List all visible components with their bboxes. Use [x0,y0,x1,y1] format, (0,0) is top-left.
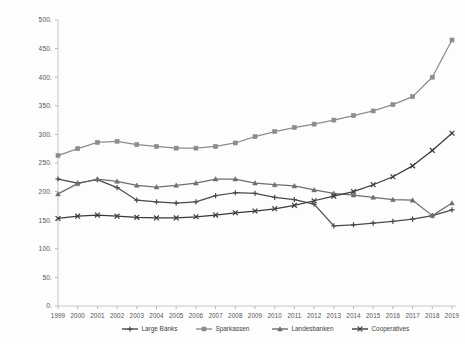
data-point-marker [213,193,218,198]
y-tick-label: 50. [42,274,52,281]
data-point-marker [127,326,132,331]
data-point-marker [390,219,395,224]
y-tick-label: 150. [39,217,52,224]
series-layer [55,38,454,229]
data-point-marker [233,141,237,145]
data-point-marker [214,144,218,148]
x-tick-label: 2011 [287,312,301,319]
data-point-marker [410,163,415,168]
data-point-marker [391,174,396,179]
data-point-marker [449,207,454,212]
data-point-marker [411,95,415,99]
data-point-marker [233,190,238,195]
x-tick-label: 2014 [346,312,361,319]
data-point-marker [76,147,80,151]
x-tick-label: 2012 [307,312,322,319]
legend-item-label: Sparkassen [216,325,250,333]
x-tick-label: 2005 [169,312,184,319]
y-tick-label: 250. [39,159,52,166]
data-point-marker [371,220,376,225]
data-point-marker [450,201,455,205]
y-tick-label: 0. [46,302,52,309]
legend-item-label: Landesbanken [292,325,334,332]
x-tick-label: 2002 [110,312,125,319]
data-point-marker [155,144,159,148]
data-point-marker [95,140,99,144]
chart-legend: Large BanksSparkassenLandesbankenCoopera… [122,325,409,333]
x-tick-label: 2008 [228,312,243,319]
data-point-marker [253,135,257,139]
data-point-marker [450,38,454,42]
x-tick-label: 2019 [445,312,460,319]
data-point-marker [391,103,395,107]
x-tick-label: 2007 [208,312,223,319]
data-point-marker [115,139,119,143]
x-tick-label: 2003 [130,312,145,319]
legend-item-large-banks[interactable]: Large Banks [122,325,177,333]
data-point-marker [55,176,60,181]
x-tick-label: 1999 [51,312,66,319]
x-tick-label: 2017 [405,312,420,319]
data-point-marker [272,195,277,200]
line-chart: 0.50.100.150.200.250.300.350.400.450.500… [0,0,465,344]
y-tick-label: 400. [39,74,52,81]
legend-item-label: Cooperatives [372,325,410,333]
data-point-marker [450,131,455,136]
data-point-marker [430,148,435,153]
data-point-marker [410,216,415,221]
data-point-marker [252,191,257,196]
data-point-marker [332,118,336,122]
x-tick-label: 2016 [386,312,401,319]
data-point-marker [312,122,316,126]
legend-item-label: Large Banks [142,325,178,333]
series-sparkassen [56,38,454,158]
y-tick-label: 300. [39,131,52,138]
data-point-marker [351,222,356,227]
data-point-marker [56,154,60,158]
y-axis: 0.50.100.150.200.250.300.350.400.450.500… [39,16,58,309]
x-tick-label: 2009 [248,312,263,319]
data-point-marker [194,146,198,150]
x-tick-label: 2004 [149,312,164,319]
data-point-marker [292,126,296,130]
x-tick-label: 2000 [70,312,85,319]
data-point-marker [273,130,277,134]
data-point-marker [174,200,179,205]
data-point-marker [292,197,297,202]
series-cooperatives [56,131,455,221]
y-tick-label: 350. [39,102,52,109]
x-tick-label: 2010 [267,312,282,319]
data-point-marker [154,199,159,204]
x-tick-label: 2006 [189,312,204,319]
y-tick-label: 200. [39,188,52,195]
legend-item-landesbanken[interactable]: Landesbanken [272,325,334,332]
data-point-marker [352,114,356,118]
data-point-marker [135,143,139,147]
x-axis: 1999200020012002200320042005200620072008… [51,306,460,319]
series-line [58,133,452,218]
x-tick-label: 2001 [90,312,105,319]
y-tick-label: 100. [39,245,52,252]
legend-item-cooperatives[interactable]: Cooperatives [352,325,409,333]
data-point-marker [430,75,434,79]
y-tick-label: 500. [39,16,52,23]
data-point-marker [193,199,198,204]
x-tick-label: 2015 [366,312,381,319]
chart-container: 0.50.100.150.200.250.300.350.400.450.500… [0,0,465,344]
legend-item-sparkassen[interactable]: Sparkassen [196,325,250,333]
data-point-marker [202,327,206,331]
x-tick-label: 2013 [327,312,342,319]
y-tick-label: 450. [39,45,52,52]
data-point-marker [371,109,375,113]
data-point-marker [174,146,178,150]
x-tick-label: 2018 [425,312,440,319]
